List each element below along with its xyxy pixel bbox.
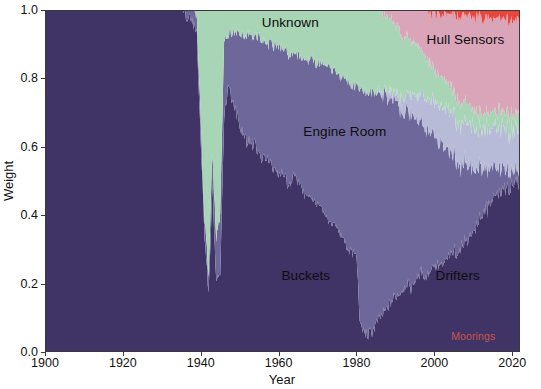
y-tick-mark: [41, 147, 45, 148]
y-tick-label: 0.2: [0, 277, 38, 290]
x-tick-mark: [434, 352, 435, 356]
stacked-area-chart-figure: UnknownHull SensorsEngine RoomBucketsDri…: [0, 0, 541, 389]
x-tick-mark: [356, 352, 357, 356]
y-tick-label: 0.8: [0, 72, 38, 85]
y-tick-mark: [41, 284, 45, 285]
series-label-moorings: Moorings: [451, 330, 495, 342]
series-label-hull-sensors: Hull Sensors: [427, 32, 505, 47]
x-tick-label: 1960: [265, 357, 293, 370]
y-tick-mark: [41, 78, 45, 79]
x-tick-label: 2000: [420, 357, 448, 370]
x-tick-label: 1900: [31, 357, 59, 370]
x-tick-label: 2020: [498, 357, 526, 370]
y-axis-title-host: Weight: [14, 0, 15, 389]
stacked-area-series: [45, 10, 520, 352]
x-tick-mark: [279, 352, 280, 356]
chart-canvas: [45, 10, 520, 352]
x-tick-mark: [512, 352, 513, 356]
x-tick-label: 1980: [343, 357, 371, 370]
y-tick-label: 0.6: [0, 141, 38, 154]
x-tick-mark: [201, 352, 202, 356]
series-label-buckets: Buckets: [281, 268, 330, 283]
plot-area: [45, 10, 520, 352]
x-tick-mark: [123, 352, 124, 356]
series-label-engine-room: Engine Room: [303, 124, 386, 139]
x-tick-mark: [45, 352, 46, 356]
y-tick-mark: [41, 10, 45, 11]
y-axis-title: Weight: [1, 161, 16, 201]
x-tick-label: 1920: [109, 357, 137, 370]
x-tick-label: 1940: [187, 357, 215, 370]
series-label-drifters: Drifters: [436, 268, 480, 283]
y-tick-label: 0.4: [0, 209, 38, 222]
series-label-unknown: Unknown: [262, 14, 319, 29]
y-tick-mark: [41, 215, 45, 216]
x-axis-title: Year: [269, 372, 295, 387]
y-tick-label: 1.0: [0, 4, 38, 17]
